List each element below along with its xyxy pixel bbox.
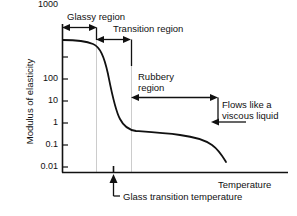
y-axis-title: Modulus of elasticity [24, 47, 35, 157]
y-tick-label-1000: 1000 [20, 0, 58, 9]
rubbery-region-label-line1: Rubbery [138, 72, 174, 82]
glass-transition-temperature-arrow [110, 174, 121, 196]
glass-transition-temperature-label: Glass transition temperature [123, 192, 242, 202]
modulus-vs-temperature-figure: 1000 100 10 1 0.1 0.01 Modulus of elasti… [0, 0, 297, 216]
y-tick-label-0-01: 0.01 [20, 162, 58, 171]
x-axis-title: Temperature [218, 180, 271, 190]
rubbery-region-label-line2: region [138, 83, 164, 93]
y-axis-ticks [63, 57, 69, 167]
viscous-flow-label-line1: Flows like a [222, 100, 272, 110]
viscous-flow-label-line2: viscous liquid [222, 111, 279, 121]
glassy-region-label: Glassy region [67, 12, 125, 22]
transition-region-label: Transition region [113, 24, 183, 34]
rubbery-region-arrow [131, 94, 218, 101]
modulus-curve [63, 40, 226, 162]
glassy-region-arrow [62, 24, 97, 40]
